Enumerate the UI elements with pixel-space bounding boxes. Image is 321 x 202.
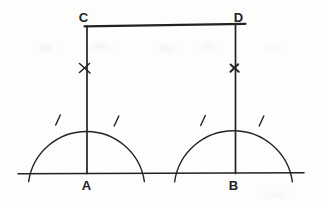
label-d: D <box>234 10 243 25</box>
label-b: B <box>229 178 238 193</box>
intersection-x-mark <box>80 64 91 74</box>
geometry-construction-svg: C D A B <box>0 0 321 202</box>
scanned-page: { "labels": { "A": "A", "B": "B", "C": "… <box>0 0 321 202</box>
arc-tick-mark <box>114 116 119 126</box>
intersection-x-mark <box>231 64 239 72</box>
label-c: C <box>79 10 89 25</box>
arc-tick-mark <box>56 115 61 125</box>
label-a: A <box>82 178 92 193</box>
baseline <box>18 173 304 174</box>
arc-tick-mark <box>201 116 206 126</box>
arc-tick-mark <box>259 116 264 126</box>
segment-cd <box>85 24 246 27</box>
ink-strokes <box>18 24 304 182</box>
arc-centered-at-b <box>175 131 293 182</box>
construction-diagram: C D A B <box>0 0 321 202</box>
point-labels: C D A B <box>79 10 243 194</box>
